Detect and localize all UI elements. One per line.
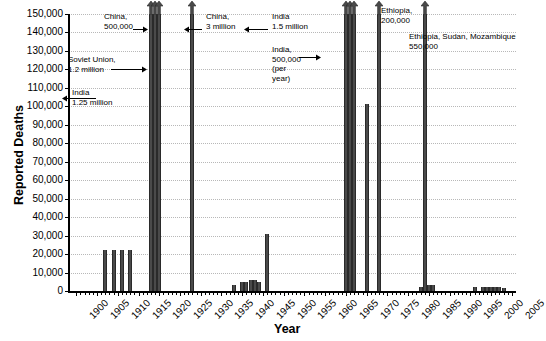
x-tick-mark-minor: [238, 292, 239, 295]
y-tick-mark: [65, 125, 68, 126]
x-tick-mark-minor: [143, 292, 144, 295]
bar-1944: [257, 282, 261, 291]
x-tick-mark-minor: [354, 292, 355, 295]
x-tick-mark-minor: [184, 292, 185, 295]
gridline-y: [68, 180, 516, 181]
x-tick-mark-minor: [416, 292, 417, 295]
y-tick-label-20000: 20,000: [0, 249, 63, 259]
x-tick-mark-minor: [251, 292, 252, 295]
x-tick-mark-minor: [325, 292, 326, 296]
x-tick-mark-minor: [433, 292, 434, 295]
x-tick-mark-minor: [85, 292, 86, 295]
x-tick-mark-minor: [441, 292, 442, 295]
y-tick-label-120000: 120,000: [0, 64, 63, 74]
x-tick-label-1960: 1960: [337, 298, 360, 321]
x-tick-mark-minor: [267, 292, 268, 295]
bar-overflow-arrow-1928: [188, 1, 196, 15]
y-tick-mark: [65, 291, 68, 292]
y-tick-mark: [65, 14, 68, 15]
bar-1970: [365, 104, 369, 291]
y-tick-label-110000: 110,000: [0, 83, 63, 93]
x-tick-label-1950: 1950: [295, 298, 318, 321]
bar-1911: [120, 250, 124, 291]
x-tick-mark-minor: [499, 292, 500, 295]
x-tick-mark-minor: [408, 292, 409, 296]
x-tick-mark-minor: [205, 292, 206, 295]
x-tick-mark-minor: [333, 292, 334, 295]
x-tick-mark-minor: [387, 292, 388, 296]
x-tick-label-1925: 1925: [192, 298, 215, 321]
x-tick-mark-minor: [450, 292, 451, 296]
bar-1973: [377, 14, 381, 291]
x-tick-mark-minor: [375, 292, 376, 295]
x-tick-mark-minor: [197, 292, 198, 295]
x-tick-mark-minor: [159, 292, 160, 296]
x-tick-mark-minor: [180, 292, 181, 296]
x-tick-mark-minor: [163, 292, 164, 295]
y-tick-mark: [65, 217, 68, 218]
x-tick-mark-minor: [288, 292, 289, 295]
x-tick-label-1975: 1975: [399, 298, 422, 321]
x-tick-label-1930: 1930: [212, 298, 235, 321]
bar-1920: [157, 14, 161, 291]
gridline-y: [68, 125, 516, 126]
x-tick-label-1970: 1970: [378, 298, 401, 321]
x-tick-mark-minor: [346, 292, 347, 296]
x-tick-mark-minor: [209, 292, 210, 295]
x-tick-mark-minor: [475, 292, 476, 295]
x-tick-mark-minor: [284, 292, 285, 296]
x-tick-label-1955: 1955: [316, 298, 339, 321]
annotation-india-1965: India 1.5 million: [272, 12, 308, 31]
y-tick-label-80000: 80,000: [0, 138, 63, 148]
annotation-arrow-india-1918: [62, 88, 96, 95]
x-tick-mark-minor: [483, 292, 484, 295]
x-axis-title: Year: [274, 322, 300, 336]
annotation-arrow-india-1966: [299, 47, 321, 54]
x-tick-mark-minor: [379, 292, 380, 295]
x-tick-mark-minor: [358, 292, 359, 295]
x-tick-mark-minor: [400, 292, 401, 295]
bar-1909: [112, 250, 116, 291]
y-tick-label-90000: 90,000: [0, 120, 63, 130]
x-tick-mark-minor: [134, 292, 135, 295]
x-tick-mark-minor: [130, 292, 131, 295]
bar-1967: [352, 14, 356, 291]
x-tick-mark-minor: [445, 292, 446, 295]
x-tick-mark-minor: [275, 292, 276, 295]
gridline-y: [68, 88, 516, 89]
x-tick-mark-minor: [151, 292, 152, 295]
x-tick-label-1905: 1905: [109, 298, 132, 321]
y-tick-mark: [65, 143, 68, 144]
x-tick-mark-minor: [300, 292, 301, 295]
x-tick-mark-minor: [466, 292, 467, 295]
bar-2003: [502, 288, 506, 291]
gridline-y: [68, 162, 516, 163]
x-tick-mark-minor: [93, 292, 94, 295]
x-tick-mark-minor: [139, 292, 140, 296]
annotation-china-1928: China, 3 million: [206, 12, 235, 31]
x-tick-label-1910: 1910: [129, 298, 152, 321]
x-tick-mark-minor: [495, 292, 496, 295]
x-tick-mark-minor: [122, 292, 123, 295]
gridline-y: [68, 143, 516, 144]
x-tick-mark-minor: [230, 292, 231, 295]
annotation-arrow-china-1920: [133, 19, 148, 26]
bar-1938: [232, 285, 236, 291]
x-tick-mark-minor: [97, 292, 98, 296]
x-tick-mark-minor: [350, 292, 351, 295]
y-tick-mark: [65, 106, 68, 107]
x-tick-mark-minor: [118, 292, 119, 296]
annotation-arrow-china-1928: [184, 19, 202, 26]
y-tick-mark: [65, 32, 68, 33]
x-tick-mark-minor: [329, 292, 330, 295]
x-tick-mark-minor: [367, 292, 368, 296]
y-tick-mark: [65, 180, 68, 181]
x-tick-mark-minor: [512, 292, 513, 296]
x-tick-mark-minor: [168, 292, 169, 295]
x-tick-mark-minor: [508, 292, 509, 295]
y-tick-label-60000: 60,000: [0, 175, 63, 185]
x-tick-mark-minor: [396, 292, 397, 295]
y-tick-label-30000: 30,000: [0, 231, 63, 241]
x-tick-mark-minor: [371, 292, 372, 295]
y-tick-label-100000: 100,000: [0, 101, 63, 111]
